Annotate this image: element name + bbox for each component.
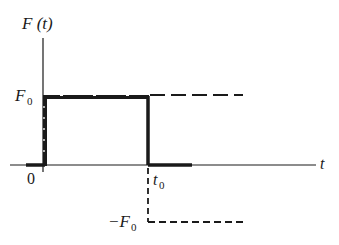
y-axis-label: F (t) — [21, 14, 53, 33]
x-axis-label: t — [320, 155, 325, 172]
pulse-diagram: F (t) t 0 F 0 t 0 −F 0 — [0, 0, 339, 245]
F0-label-subscript: 0 — [27, 95, 33, 107]
origin-label: 0 — [27, 170, 35, 187]
negF0-label-subscript: 0 — [131, 221, 137, 233]
t0-label: t — [153, 171, 158, 188]
t0-label-subscript: 0 — [159, 179, 165, 191]
F0-label: F — [14, 86, 26, 105]
negF0-label: −F — [108, 212, 130, 231]
